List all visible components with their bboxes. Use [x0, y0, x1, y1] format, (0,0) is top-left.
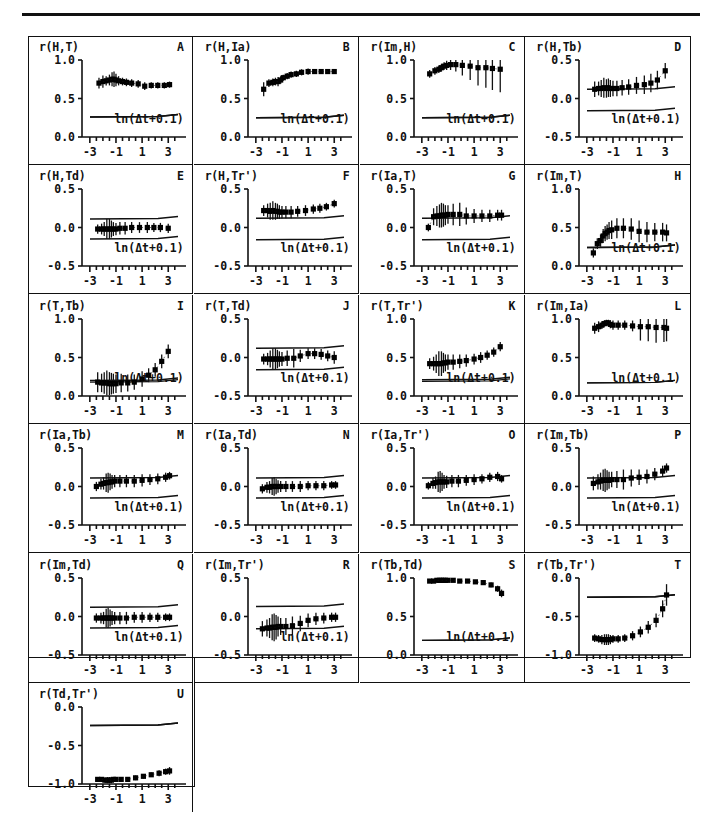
plot-area: -0.50.00.5-3-113ln(Δt+0.1) [525, 36, 690, 165]
svg-text:1: 1 [636, 274, 643, 288]
svg-text:-1: -1 [109, 663, 123, 677]
svg-text:1: 1 [636, 145, 643, 159]
svg-text:0.5: 0.5 [386, 609, 407, 623]
chart-panel-k: r(T,Tr')K0.00.51.0-3-113ln(Δt+0.1) [360, 295, 525, 424]
svg-text:-1: -1 [109, 533, 123, 547]
data-point [630, 323, 635, 328]
svg-text:ln(Δt+0.1): ln(Δt+0.1) [280, 371, 349, 385]
svg-text:-0.5: -0.5 [213, 648, 241, 662]
svg-text:-3: -3 [83, 533, 97, 547]
svg-text:-3: -3 [414, 274, 428, 288]
svg-text:-1: -1 [441, 145, 455, 159]
svg-text:3: 3 [496, 404, 503, 418]
svg-text:-3: -3 [83, 274, 97, 288]
data-point [331, 355, 336, 360]
svg-text:ln(Δt+0.1): ln(Δt+0.1) [446, 241, 515, 255]
svg-text:-0.5: -0.5 [379, 259, 407, 273]
svg-text:1.0: 1.0 [54, 312, 75, 326]
svg-text:-1: -1 [275, 404, 289, 418]
svg-text:0.0: 0.0 [54, 221, 75, 235]
svg-text:-1: -1 [275, 145, 289, 159]
chart-panel-i: r(T,Tb)I0.00.51.0-3-113ln(Δt+0.1) [28, 295, 193, 424]
svg-text:-1: -1 [606, 533, 620, 547]
svg-text:3: 3 [165, 145, 172, 159]
svg-text:-3: -3 [414, 663, 428, 677]
data-point [664, 592, 669, 597]
chart-panel-t: r(Tb,Tr')T-1.0-0.50.0-3-113 [525, 554, 690, 683]
svg-text:3: 3 [662, 533, 669, 547]
svg-text:1: 1 [139, 533, 146, 547]
plot-area: -1.0-0.50.0-3-113 [28, 683, 193, 812]
plot-area: -0.50.00.5-3-113ln(Δt+0.1) [28, 554, 193, 683]
svg-text:0.0: 0.0 [551, 571, 572, 585]
svg-text:ln(Δt+0.1): ln(Δt+0.1) [446, 630, 515, 644]
svg-text:0.5: 0.5 [386, 350, 407, 364]
svg-text:0.5: 0.5 [551, 441, 572, 455]
svg-text:ln(Δt+0.1): ln(Δt+0.1) [612, 112, 681, 126]
data-point [283, 484, 288, 489]
svg-text:-1: -1 [606, 274, 620, 288]
svg-text:-0.5: -0.5 [47, 518, 75, 532]
svg-text:-0.5: -0.5 [47, 648, 75, 662]
svg-text:-3: -3 [580, 533, 594, 547]
svg-text:0.0: 0.0 [551, 259, 572, 273]
svg-text:-1.0: -1.0 [47, 777, 75, 791]
svg-text:ln(Δt+0.1): ln(Δt+0.1) [612, 500, 681, 514]
svg-text:-0.5: -0.5 [379, 518, 407, 532]
svg-text:0.0: 0.0 [220, 350, 241, 364]
svg-text:-1: -1 [109, 274, 123, 288]
svg-text:0.0: 0.0 [220, 130, 241, 144]
svg-text:0.5: 0.5 [386, 441, 407, 455]
svg-text:-0.5: -0.5 [545, 609, 573, 623]
svg-text:0.5: 0.5 [386, 92, 407, 106]
svg-text:-1: -1 [441, 274, 455, 288]
svg-text:0.5: 0.5 [54, 92, 75, 106]
svg-text:-3: -3 [83, 663, 97, 677]
svg-text:1: 1 [636, 663, 643, 677]
data-point [305, 617, 310, 622]
chart-panel-f: r(H,Tr')F-0.50.00.5-3-113ln(Δt+0.1) [194, 165, 359, 294]
svg-text:0.5: 0.5 [54, 350, 75, 364]
data-point [450, 359, 455, 364]
chart-panel-a: r(H,T)A0.00.51.0-3-113ln(Δt+0.1) [28, 36, 193, 165]
svg-text:-1: -1 [606, 145, 620, 159]
data-point [333, 483, 338, 488]
data-point [598, 238, 603, 243]
chart-panel-m: r(Ia,Tb)M-0.50.00.5-3-113ln(Δt+0.1) [28, 424, 193, 553]
data-point [609, 228, 614, 233]
data-point [616, 636, 621, 641]
data-point [478, 355, 483, 360]
plot-area: 0.00.51.0-3-113ln(Δt+0.1) [28, 36, 193, 165]
svg-text:1: 1 [470, 663, 477, 677]
data-point [425, 483, 430, 488]
svg-text:0.0: 0.0 [54, 609, 75, 623]
svg-text:0.0: 0.0 [386, 480, 407, 494]
svg-text:1: 1 [470, 404, 477, 418]
plot-area: -0.50.00.5-3-113ln(Δt+0.1) [360, 424, 525, 553]
data-point [129, 81, 134, 86]
svg-text:1: 1 [470, 145, 477, 159]
svg-text:3: 3 [662, 404, 669, 418]
svg-text:0.5: 0.5 [54, 571, 75, 585]
svg-text:0.0: 0.0 [551, 480, 572, 494]
plot-area: -0.50.00.5-3-113ln(Δt+0.1) [360, 165, 525, 294]
svg-text:3: 3 [165, 533, 172, 547]
svg-text:-1: -1 [109, 404, 123, 418]
svg-text:-0.5: -0.5 [213, 389, 241, 403]
svg-text:ln(Δt+0.1): ln(Δt+0.1) [446, 500, 515, 514]
plot-area: -0.50.00.5-3-113ln(Δt+0.1) [194, 295, 359, 424]
data-point [119, 777, 124, 782]
svg-text:0.5: 0.5 [220, 571, 241, 585]
svg-text:0.5: 0.5 [54, 441, 75, 455]
svg-text:-3: -3 [249, 663, 263, 677]
data-point [260, 626, 265, 631]
svg-text:-3: -3 [414, 533, 428, 547]
svg-text:3: 3 [662, 274, 669, 288]
svg-text:-1: -1 [275, 533, 289, 547]
data-point [156, 771, 161, 776]
chart-panel-g: r(Ia,T)G-0.50.00.5-3-113ln(Δt+0.1) [360, 165, 525, 294]
plot-area: 0.00.51.0-3-113ln(Δt+0.1) [360, 554, 525, 683]
data-point [321, 483, 326, 488]
plot-area: -0.50.00.5-3-113ln(Δt+0.1) [194, 554, 359, 683]
data-point [305, 69, 310, 74]
